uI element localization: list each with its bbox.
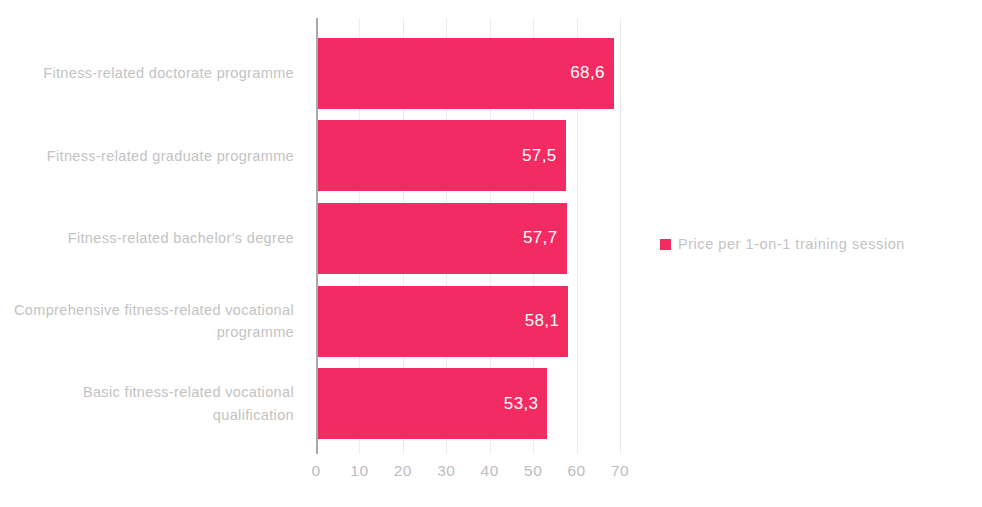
category-axis-slot: Fitness-related graduate programme xyxy=(0,115,308,198)
category-label: Fitness-related bachelor's degree xyxy=(68,227,308,249)
legend-swatch-icon xyxy=(660,239,671,250)
bar-slot: 57,5 xyxy=(316,115,620,198)
category-label: Fitness-related graduate programme xyxy=(47,145,308,167)
value-axis-tick-label: 10 xyxy=(350,462,368,480)
bar-value-label: 53,3 xyxy=(504,394,539,414)
category-axis-slot: Comprehensive fitness-related vocational… xyxy=(0,280,308,363)
value-axis-ticks: 010203040506070 xyxy=(316,462,620,486)
category-axis: Fitness-related doctorate programme Fitn… xyxy=(0,32,308,445)
bar-slot: 53,3 xyxy=(316,362,620,445)
category-label: Comprehensive fitness-related vocational… xyxy=(4,299,308,344)
bar[interactable]: 68,6 xyxy=(316,38,614,109)
legend-label: Price per 1-on-1 training session xyxy=(678,236,905,252)
category-label: Basic fitness-related vocational qualifi… xyxy=(4,381,308,426)
gridline xyxy=(620,18,621,454)
bar-value-label: 68,6 xyxy=(570,63,605,83)
category-axis-slot: Basic fitness-related vocational qualifi… xyxy=(0,362,308,445)
bar-value-label: 57,7 xyxy=(523,228,558,248)
value-axis-tick-label: 70 xyxy=(611,462,629,480)
bar[interactable]: 57,5 xyxy=(316,120,566,191)
category-label: Fitness-related doctorate programme xyxy=(43,62,308,84)
category-axis-slot: Fitness-related doctorate programme xyxy=(0,32,308,115)
bar-chart: Fitness-related doctorate programme Fitn… xyxy=(0,0,982,507)
bar[interactable]: 58,1 xyxy=(316,286,568,357)
bar-series: 68,6 57,5 57,7 58,1 53,3 xyxy=(316,32,620,445)
value-axis-tick-label: 0 xyxy=(311,462,320,480)
bar-value-label: 57,5 xyxy=(522,146,557,166)
bar[interactable]: 57,7 xyxy=(316,203,567,274)
category-axis-slot: Fitness-related bachelor's degree xyxy=(0,197,308,280)
legend: Price per 1-on-1 training session xyxy=(660,236,905,252)
value-axis-tick-label: 30 xyxy=(437,462,455,480)
bar-slot: 58,1 xyxy=(316,280,620,363)
bar-value-label: 58,1 xyxy=(525,311,560,331)
value-axis-tick-label: 60 xyxy=(567,462,585,480)
bar[interactable]: 53,3 xyxy=(316,368,547,439)
value-axis-tick-label: 40 xyxy=(481,462,499,480)
bar-slot: 68,6 xyxy=(316,32,620,115)
bar-slot: 57,7 xyxy=(316,197,620,280)
plot-area: 68,6 57,5 57,7 58,1 53,3 xyxy=(316,18,620,454)
value-axis-line xyxy=(316,18,318,454)
value-axis-tick-label: 50 xyxy=(524,462,542,480)
value-axis-tick-label: 20 xyxy=(394,462,412,480)
